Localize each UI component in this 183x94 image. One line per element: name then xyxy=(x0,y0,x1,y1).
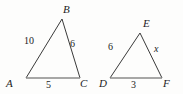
vertex-label-f: F xyxy=(163,78,170,89)
geometry-figure: A B C 10 6 5 D E F 6 x 3 xyxy=(0,0,183,94)
segment-de xyxy=(110,33,140,78)
side-length-de: 6 xyxy=(108,42,113,52)
side-length-bc: 6 xyxy=(70,39,75,49)
side-length-ac: 5 xyxy=(46,80,51,90)
side-length-ab: 10 xyxy=(24,36,34,46)
vertex-label-e: E xyxy=(143,18,150,29)
segment-ef xyxy=(140,33,162,78)
segment-ab xyxy=(26,19,62,78)
vertex-label-c: C xyxy=(80,78,87,89)
side-length-df: 3 xyxy=(131,80,136,90)
vertex-label-a: A xyxy=(6,78,13,89)
side-length-ef: x xyxy=(154,44,158,54)
triangle-def-shape xyxy=(110,33,162,78)
vertex-label-b: B xyxy=(63,4,70,15)
vertex-label-d: D xyxy=(99,78,107,89)
